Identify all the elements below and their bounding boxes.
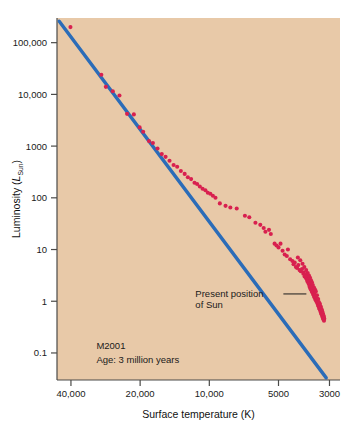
star-point [167, 159, 171, 163]
star-point [223, 204, 227, 208]
star-point [278, 242, 282, 246]
star-point [243, 214, 247, 218]
x-tick-label: 3000 [319, 388, 340, 399]
x-axis-title: Surface temperature (K) [142, 408, 255, 420]
star-point [117, 93, 121, 97]
star-point [228, 205, 232, 209]
star-point [138, 125, 142, 129]
star-point [164, 155, 168, 159]
x-tick-label: 10,000 [195, 388, 224, 399]
star-point [141, 130, 145, 134]
star-point [132, 112, 136, 116]
star-point [285, 254, 289, 258]
star-point [68, 25, 72, 29]
star-point [125, 112, 129, 116]
star-point [276, 245, 280, 249]
star-point [296, 263, 300, 267]
y-tick-label: 1 [42, 296, 47, 307]
star-point [218, 201, 222, 205]
y-axis-title-close: ) [10, 160, 22, 164]
x-tick-label: 40,000 [56, 388, 85, 399]
x-tick-label: 5000 [268, 388, 289, 399]
y-tick-label: 0.1 [34, 347, 47, 358]
star-point [111, 89, 115, 93]
star-point [300, 262, 304, 266]
star-point [267, 228, 271, 232]
star-point [263, 230, 267, 234]
y-axis-title-main: Luminosity ( [10, 181, 22, 238]
star-point [99, 73, 103, 77]
sun-annotation-line1: Present position [195, 288, 263, 299]
y-tick-label: 10,000 [18, 89, 47, 100]
star-point [104, 85, 108, 89]
star-point [262, 226, 266, 230]
star-point [179, 169, 183, 173]
y-axis-title-subscript: Sun [17, 163, 24, 175]
y-tick-label: 100 [31, 192, 47, 203]
hr-diagram-plot: 100,00010,00010001001010.1 40,00020,0001… [0, 0, 352, 436]
star-point [183, 172, 187, 176]
star-point [258, 223, 262, 227]
star-point [253, 221, 257, 225]
star-point [147, 139, 151, 143]
star-point [175, 165, 179, 169]
star-point [235, 207, 239, 211]
star-point [269, 232, 273, 236]
star-point [247, 215, 251, 219]
y-tick-label: 10 [36, 244, 47, 255]
y-tick-label: 1000 [26, 141, 47, 152]
x-tick-label: 20,000 [126, 388, 155, 399]
star-point [160, 152, 164, 156]
star-point [155, 146, 159, 150]
star-point [172, 163, 176, 167]
star-point [281, 249, 285, 253]
star-point [322, 315, 326, 319]
y-tick-label: 100,000 [13, 37, 47, 48]
star-point [213, 196, 217, 200]
sun-annotation-line2: of Sun [195, 299, 222, 310]
star-point [189, 177, 193, 181]
cluster-name-label: M2001 [96, 340, 125, 351]
cluster-age-label: Age: 3 million years [96, 354, 179, 365]
hr-diagram-figure: 100,00010,00010001001010.1 40,00020,0001… [0, 0, 352, 436]
star-point [315, 293, 319, 297]
star-point [286, 247, 290, 251]
star-point [293, 261, 297, 265]
star-point [296, 255, 300, 259]
star-point [151, 141, 155, 145]
